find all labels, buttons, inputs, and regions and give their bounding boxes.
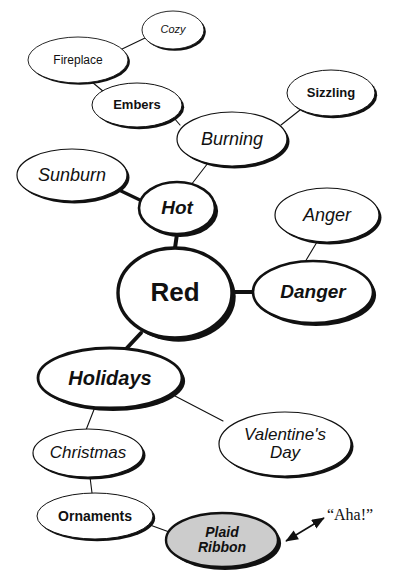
edge-red-holidays xyxy=(126,333,141,349)
edge-danger-anger xyxy=(305,242,317,262)
node-ornaments[interactable] xyxy=(37,493,153,539)
node-plaid[interactable] xyxy=(166,513,278,567)
edge-burning-sizzling xyxy=(281,110,300,125)
node-cozy[interactable] xyxy=(142,11,204,49)
node-fireplace[interactable] xyxy=(28,37,128,83)
node-burning[interactable] xyxy=(177,112,287,166)
edge-holidays-valentines xyxy=(175,396,223,421)
annotation-arrow-layer xyxy=(286,518,324,541)
edge-hot-burning xyxy=(191,163,208,185)
edge-fireplace-cozy xyxy=(120,38,145,50)
node-sizzling[interactable] xyxy=(287,70,375,116)
node-red[interactable] xyxy=(118,248,232,338)
node-danger[interactable] xyxy=(253,261,373,323)
node-christmas[interactable] xyxy=(33,429,143,477)
edge-holidays-christmas xyxy=(86,407,95,430)
aha-arrow xyxy=(286,518,324,541)
node-layer xyxy=(17,11,379,567)
aha-annotation-label: “Aha!” xyxy=(327,506,373,524)
node-sunburn[interactable] xyxy=(17,149,127,201)
node-holidays[interactable] xyxy=(38,348,182,408)
node-embers[interactable] xyxy=(92,83,182,127)
edge-hot-sunburn xyxy=(119,190,142,201)
mind-map-canvas xyxy=(0,0,396,584)
node-hot[interactable] xyxy=(139,182,215,234)
node-valentines[interactable] xyxy=(219,412,351,476)
node-anger[interactable] xyxy=(275,188,379,242)
